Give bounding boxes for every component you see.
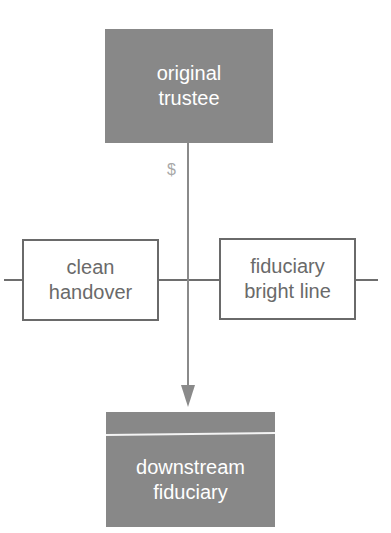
node-label: original trustee — [157, 61, 221, 111]
node-clean-handover: clean handover — [22, 239, 159, 321]
node-fiduciary-bright-line: fiduciary bright line — [219, 238, 356, 320]
flow-arrowhead-icon — [181, 385, 195, 407]
money-flow-label: $ — [167, 161, 176, 179]
node-downstream-fiduciary: downstream fiduciary — [106, 412, 275, 527]
node-label: clean handover — [49, 255, 132, 305]
node-label: fiduciary bright line — [244, 254, 331, 304]
node-original-trustee: original trustee — [105, 29, 273, 143]
node-label: downstream fiduciary — [136, 455, 245, 505]
flow-arrow-shaft — [187, 143, 189, 387]
